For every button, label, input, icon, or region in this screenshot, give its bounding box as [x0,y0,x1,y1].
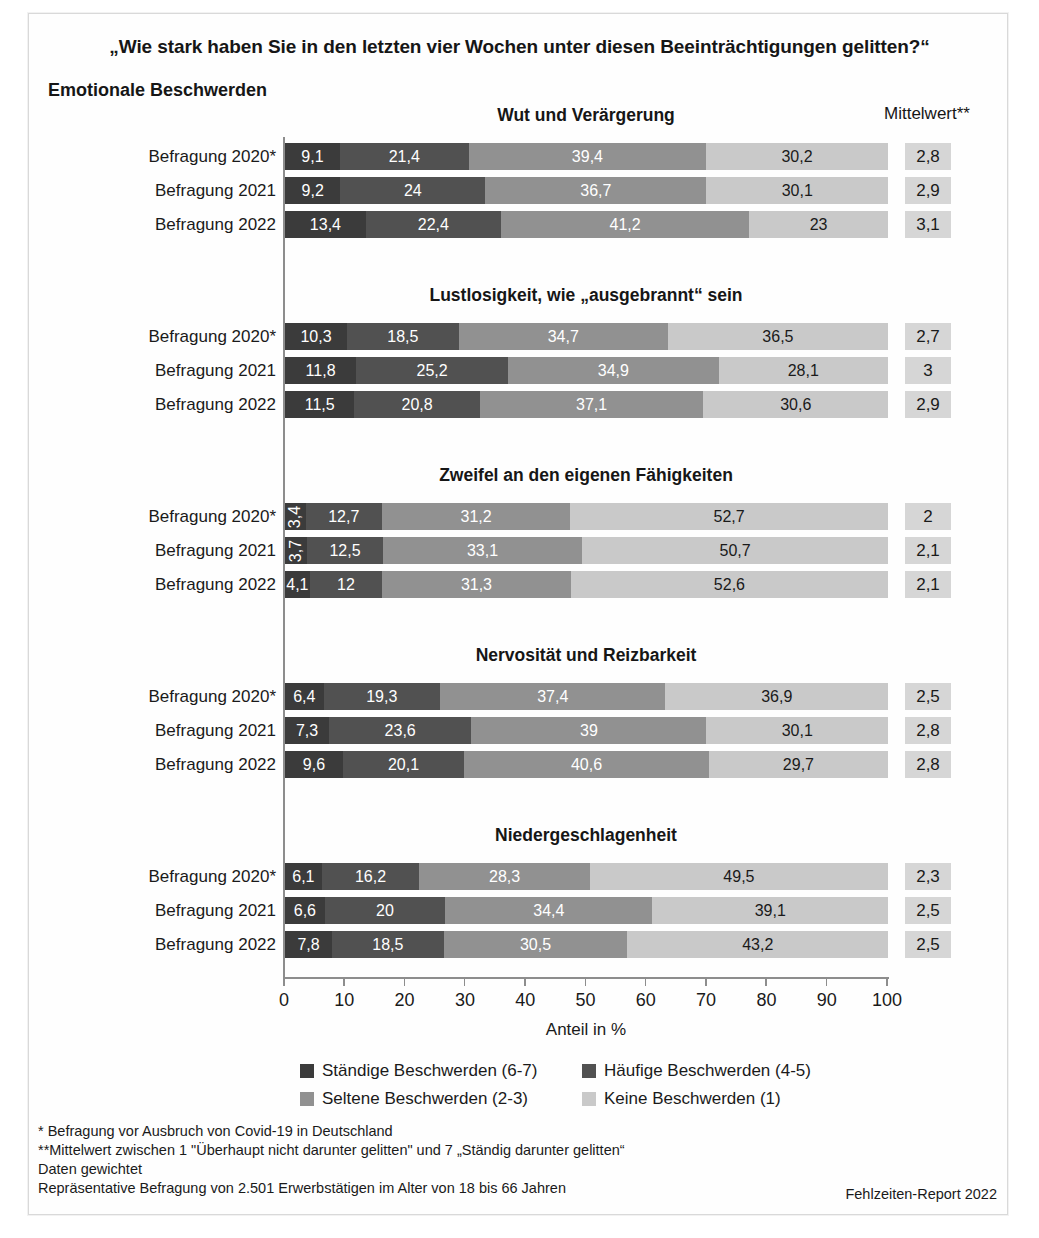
bar-segment: 11,5 [285,391,354,418]
bar-segment: 7,3 [285,717,329,744]
bar-segment: 37,4 [440,683,666,710]
x-axis-tick-label: 0 [279,990,289,1011]
x-axis-tick [765,977,767,986]
bar-segment: 12,5 [307,537,382,564]
bar-segment: 30,2 [706,143,888,170]
bar-segment: 9,2 [285,177,340,204]
x-axis-tick [886,977,888,986]
bar-segment: 34,7 [459,323,668,350]
legend-item[interactable]: Ständige Beschwerden (6-7) [300,1061,572,1081]
bar-segment-value: 7,3 [296,723,318,739]
bar-segment-value: 29,7 [783,757,814,773]
mean-value-box: 2,5 [905,683,951,710]
bar-segment-value: 22,4 [418,217,449,233]
bar-segment: 30,6 [703,391,888,418]
bar-segment-value: 34,9 [598,363,629,379]
row-label: Befragung 2021 [0,901,276,921]
row-label: Befragung 2022 [0,395,276,415]
x-axis-tick-label: 60 [636,990,656,1011]
bar-segment: 36,7 [485,177,706,204]
mean-value-box: 2 [905,503,951,530]
bar-segment-value: 40,6 [571,757,602,773]
bar-segment: 37,1 [480,391,704,418]
mean-value-box: 2,5 [905,897,951,924]
bar-segment-value: 30,1 [782,183,813,199]
stacked-bar: 6,116,228,349,5 [285,863,888,890]
bar-segment-value: 39,4 [572,149,603,165]
x-axis-tick [404,977,406,986]
stacked-bar: 10,318,534,736,5 [285,323,888,350]
bar-segment: 41,2 [501,211,749,238]
chart-legend: Ständige Beschwerden (6-7)Häufige Beschw… [300,1061,900,1109]
legend-label: Häufige Beschwerden (4-5) [604,1061,811,1081]
bar-segment: 43,2 [627,931,887,958]
legend-swatch-icon [582,1064,596,1078]
bar-segment: 6,4 [285,683,324,710]
x-axis-tick-label: 40 [515,990,535,1011]
bar-segment: 39,4 [469,143,706,170]
bar-segment-value: 33,1 [467,543,498,559]
row-label: Befragung 2020* [0,867,276,887]
stacked-bar: 7,323,63930,1 [285,717,888,744]
bar-segment: 21,4 [340,143,469,170]
bar-segment: 36,9 [665,683,888,710]
bar-segment-value: 36,5 [762,329,793,345]
bar-segment: 9,1 [285,143,340,170]
x-axis-tick [645,977,647,986]
bar-segment-value: 12,7 [328,509,359,525]
bar-segment-value: 31,2 [461,509,492,525]
x-axis-tick-label: 30 [455,990,475,1011]
mean-value-box: 2,1 [905,537,951,564]
bar-segment: 20,1 [343,751,464,778]
bar-segment: 30,5 [444,931,628,958]
bar-segment: 33,1 [383,537,583,564]
bar-segment: 10,3 [285,323,347,350]
mean-value-box: 2,8 [905,751,951,778]
chart-page: „Wie stark haben Sie in den letzten vier… [0,0,1039,1238]
legend-label: Ständige Beschwerden (6-7) [322,1061,537,1081]
bar-segment: 30,1 [706,717,888,744]
row-label: Befragung 2022 [0,935,276,955]
bar-segment-value: 9,1 [301,149,323,165]
bar-segment: 4,1 [285,571,310,598]
mean-value-box: 3 [905,357,951,384]
footnote-line: * Befragung vor Ausbruch von Covid-19 in… [38,1122,625,1141]
bar-segment-value: 31,3 [461,577,492,593]
bar-segment-value: 28,1 [788,363,819,379]
bar-segment-value: 23 [810,217,828,233]
mean-value-box: 2,3 [905,863,951,890]
mean-value-box: 2,9 [905,391,951,418]
bar-segment: 52,6 [571,571,888,598]
bar-segment-value: 21,4 [389,149,420,165]
x-axis-tick [524,977,526,986]
bar-segment-value: 30,5 [520,937,551,953]
bar-segment: 11,8 [285,357,356,384]
legend-swatch-icon [582,1092,596,1106]
row-label: Befragung 2021 [0,541,276,561]
bar-segment-value: 9,6 [303,757,325,773]
x-axis-tick [343,977,345,986]
bar-segment: 25,2 [356,357,508,384]
legend-item[interactable]: Seltene Beschwerden (2-3) [300,1089,572,1109]
legend-item[interactable]: Keine Beschwerden (1) [582,1089,854,1109]
stacked-bar: 11,520,837,130,6 [285,391,888,418]
bar-segment-value: 7,8 [297,937,319,953]
row-label: Befragung 2022 [0,575,276,595]
mean-value-box: 2,8 [905,717,951,744]
stacked-bar: 4,11231,352,6 [285,571,888,598]
bar-segment: 23 [749,211,888,238]
x-axis-tick-label: 90 [817,990,837,1011]
bar-segment-value: 30,2 [781,149,812,165]
chart-plot-area: Wut und VerärgerungBefragung 2020*9,121,… [0,0,1039,1238]
bar-segment-value: 20,8 [401,397,432,413]
bar-segment: 18,5 [347,323,459,350]
stacked-bar: 3,712,533,150,7 [285,537,888,564]
row-label: Befragung 2020* [0,147,276,167]
bar-segment-value: 4,1 [286,577,308,593]
bar-segment-value: 19,3 [366,689,397,705]
bar-segment: 29,7 [709,751,888,778]
bar-segment-value: 34,7 [548,329,579,345]
mean-value-box: 2,1 [905,571,951,598]
legend-item[interactable]: Häufige Beschwerden (4-5) [582,1061,854,1081]
x-axis-tick [283,977,285,986]
